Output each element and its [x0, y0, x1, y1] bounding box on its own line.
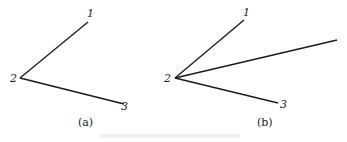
segment-2-3: [175, 78, 278, 103]
point-label-1: 1: [87, 7, 94, 20]
segment-2-1: [20, 22, 88, 78]
caption-a: (a): [78, 116, 93, 129]
point-label-3: 3: [121, 100, 128, 113]
segment-2-3: [20, 78, 124, 104]
bond-diagram: 1 2 3 (a) 1 2 3 (b): [0, 0, 347, 142]
panel-b: 1 2 3 (b): [163, 6, 337, 129]
point-label-1: 1: [243, 6, 250, 19]
caption-b: (b): [257, 116, 273, 129]
cropped-caption-line: [100, 134, 240, 138]
panel-a: 1 2 3 (a): [9, 7, 128, 129]
point-label-3: 3: [280, 98, 287, 111]
segment-2-extra: [175, 40, 337, 78]
point-label-2: 2: [9, 72, 17, 85]
point-label-2: 2: [163, 72, 171, 85]
